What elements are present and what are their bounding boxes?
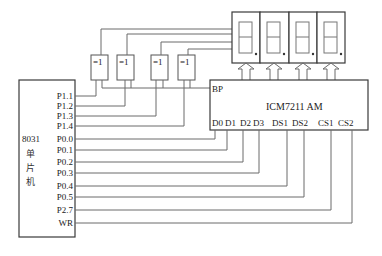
- gate-label: =1: [180, 57, 190, 67]
- pin-p0-5: P0.5: [57, 192, 74, 202]
- circuit-diagram: 8031 单 片 机 P1.1 P1.2 P1.3 P1.4 P0.0 P0.1…: [0, 0, 382, 256]
- mcu-name: 8031: [22, 134, 40, 144]
- pin-d1: D1: [225, 118, 236, 128]
- bus-arrows: [238, 63, 339, 80]
- gate-to-display-wires: [101, 29, 232, 55]
- gate-label: =1: [93, 57, 103, 67]
- xor-gate-3: =1: [151, 55, 168, 80]
- pin-d2: D2: [240, 118, 251, 128]
- pin-p1-3: P1.3: [57, 111, 74, 121]
- p1-to-gate-wires: [75, 80, 184, 126]
- pin-p0-4: P0.4: [57, 181, 74, 191]
- pin-d3: D3: [253, 118, 264, 128]
- bp-label: BP: [212, 84, 223, 94]
- driver-name: ICM7211 AM: [266, 101, 323, 112]
- pin-p1-1: P1.1: [57, 91, 73, 101]
- gate-label: =1: [153, 57, 163, 67]
- pin-p1-4: P1.4: [57, 121, 74, 131]
- pin-p0-1: P0.1: [57, 145, 73, 155]
- pin-p1-2: P1.2: [57, 101, 73, 111]
- pin-wr: WR: [59, 218, 74, 228]
- pin-p0-2: P0.2: [57, 157, 73, 167]
- pin-p2-7: P2.7: [57, 205, 74, 215]
- xor-gate-1: =1: [91, 55, 108, 80]
- seven-segment-displays: [232, 12, 345, 63]
- pin-ds2: DS2: [292, 118, 308, 128]
- xor-gate-4: =1: [178, 55, 195, 80]
- mcu-name-cn-2: 片: [26, 162, 35, 173]
- mcu-name-cn-1: 单: [26, 148, 35, 159]
- mcu-name-cn-3: 机: [26, 176, 35, 187]
- gate-label: =1: [119, 57, 129, 67]
- pin-p0-3: P0.3: [57, 168, 74, 178]
- pin-cs2: CS2: [338, 118, 354, 128]
- pin-d0: D0: [212, 118, 223, 128]
- pin-p0-0: P0.0: [57, 134, 74, 144]
- pin-cs1: CS1: [318, 118, 334, 128]
- pin-ds1: DS1: [272, 118, 288, 128]
- xor-gate-2: =1: [117, 55, 134, 80]
- mcu-to-driver-wires: [75, 130, 352, 223]
